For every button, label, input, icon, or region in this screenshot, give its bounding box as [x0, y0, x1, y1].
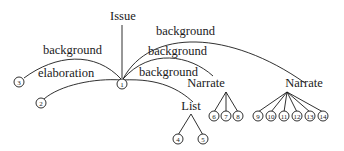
- node-13-label: 13: [307, 113, 315, 121]
- edge-label-elaboration: elaboration: [38, 66, 95, 80]
- relation-label-narrate-1: Narrate: [187, 76, 225, 90]
- edge-narrate1-to-6: [214, 92, 226, 112]
- edge-label-background-left: background: [43, 43, 103, 57]
- relation-label-list: List: [181, 99, 201, 113]
- node-4-label: 4: [176, 136, 180, 144]
- edge-label-background-top: background: [156, 24, 216, 38]
- relation-label-narrate-2: Narrate: [285, 76, 323, 90]
- node-14-label: 14: [320, 113, 328, 121]
- root-label-issue: Issue: [110, 9, 136, 23]
- edge-list-to-4: [178, 114, 191, 135]
- node-11-label: 11: [281, 113, 288, 121]
- node-6-label: 6: [212, 113, 216, 121]
- node-3-label: 3: [17, 79, 21, 87]
- node-9-label: 9: [256, 113, 260, 121]
- discourse-tree-diagram: Issue background elaboration background …: [0, 0, 344, 151]
- edge-narrate2-to-13: [287, 92, 310, 112]
- edge-elaboration-to-2: [44, 80, 121, 99]
- node-1-label: 1: [120, 81, 124, 89]
- node-5-label: 5: [201, 136, 205, 144]
- node-12-label: 12: [294, 113, 302, 121]
- edge-narrate2-to-9: [258, 92, 287, 112]
- node-2-label: 2: [39, 100, 43, 108]
- edge-list-to-5: [191, 114, 203, 135]
- node-7-label: 7: [224, 113, 228, 121]
- edge-narrate1-to-8: [226, 92, 238, 112]
- node-8-label: 8: [236, 113, 240, 121]
- edge-label-background-mid: background: [148, 44, 208, 58]
- node-10-label: 10: [268, 113, 276, 121]
